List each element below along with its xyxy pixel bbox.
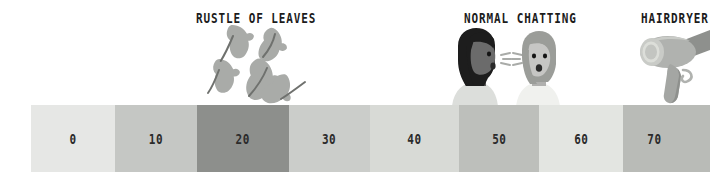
decibel-scale-bar: 0 10 20 30 40 50 60 70: [31, 105, 710, 172]
noise-scale-infographic: RUSTLE OF LEAVES NORMAL CHATTING HAIRDRY…: [0, 0, 710, 185]
scale-segment-50[interactable]: 50: [459, 105, 539, 172]
scale-segment-label: 10: [149, 131, 163, 148]
scale-segment-label: 40: [407, 131, 421, 148]
scale-segment-label: 50: [492, 131, 506, 148]
scale-segment-30[interactable]: 30: [289, 105, 370, 172]
hairdryer-icon: [636, 26, 710, 106]
scale-segment-40[interactable]: 40: [370, 105, 460, 172]
annotation-label-normal-chatting: NORMAL CHATTING: [464, 10, 577, 27]
scale-segment-60[interactable]: 60: [539, 105, 623, 172]
scale-segment-label: 30: [322, 131, 336, 148]
scale-segment-label: 70: [647, 131, 661, 148]
scale-segment-label: 0: [69, 131, 76, 148]
annotation-label-hairdryer: HAIRDRYER: [641, 10, 709, 27]
scale-segment-label: 60: [574, 131, 588, 148]
scale-segment-0[interactable]: 0: [31, 105, 115, 172]
leaves-icon: [205, 24, 315, 108]
scale-segment-label: 20: [236, 131, 250, 148]
scale-segment-20[interactable]: 20: [197, 105, 289, 172]
scale-segment-70[interactable]: 70: [623, 105, 710, 172]
two-people-talking-icon: [450, 26, 562, 106]
scale-segment-10[interactable]: 10: [115, 105, 197, 172]
